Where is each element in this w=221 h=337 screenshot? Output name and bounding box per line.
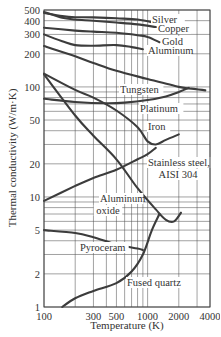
y-tick-label: 100: [24, 82, 40, 93]
y-tick-label: 50: [30, 115, 41, 126]
y-tick-label: 500: [24, 5, 40, 16]
y-tick-label: 10: [30, 192, 41, 203]
series-label-aluminum: Aluminum: [148, 45, 194, 56]
y-tick-label: 20: [30, 159, 41, 170]
y-tick-label: 300: [24, 29, 40, 40]
series-label-iron: Iron: [148, 121, 166, 132]
y-tick-label: 5: [35, 225, 40, 236]
series-label-tungsten: Tungsten: [120, 84, 159, 95]
y-axis-label: Thermal conductivity (W/m·K): [6, 88, 19, 227]
series-label-copper: Copper: [158, 23, 189, 34]
x-tick-label: 2000: [168, 311, 189, 322]
x-tick-label: 4000: [200, 311, 221, 322]
series-label-aluminum-oxide: oxide: [96, 205, 120, 216]
series-label-stainless-steel-aisi-304: AISI 304: [159, 169, 199, 180]
series-label-fused-quartz: Fused quartz: [127, 277, 181, 288]
series-label-platinum: Platinum: [140, 103, 178, 114]
y-tick-label: 400: [24, 16, 40, 27]
y-tick-label: 1: [35, 302, 40, 313]
y-tick-label: 200: [24, 49, 40, 60]
thermal-conductivity-chart: SilverCopperGoldAluminumTungstenPlatinum…: [0, 0, 220, 337]
series-label-aluminum-oxide: Aluminum: [100, 193, 146, 204]
x-axis-label: Temperature (K): [90, 319, 164, 332]
y-tick-label: 2: [35, 269, 40, 280]
series-label-stainless-steel-aisi-304: Stainless steel,: [148, 157, 210, 168]
series-label-pyroceram: Pyroceram: [80, 242, 125, 253]
